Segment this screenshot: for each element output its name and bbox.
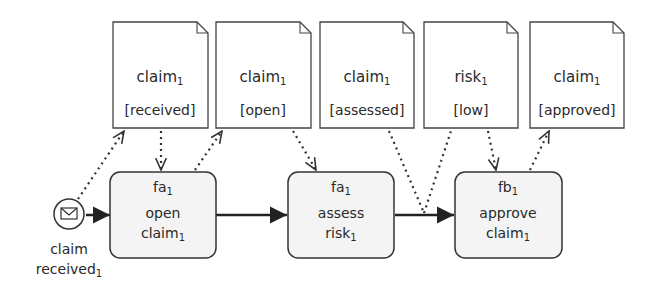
assoc-assess-to-risk [424,131,451,213]
data-object-state: [approved] [538,102,615,118]
data-object[interactable]: claim1 [assessed] [320,22,414,128]
data-object[interactable]: claim1 [approved] [530,22,624,128]
assoc-open-to-claim-open [195,131,222,170]
task[interactable]: fa1 open claim1 [110,172,216,258]
data-object-name: claim1 [344,68,391,87]
envelope-icon [61,208,77,219]
task-label-line1: approve [479,205,536,221]
data-object-name: claim1 [240,68,287,87]
task[interactable]: fa1 assess risk1 [288,172,394,258]
data-object[interactable]: claim1 [received] [113,22,208,128]
assoc-risk-to-approve [488,131,496,170]
data-object-name: claim1 [137,68,184,87]
assoc-claim-open-to-assess [293,131,316,170]
data-object-state: [open] [240,102,286,118]
task-label-line2: claim1 [141,225,185,243]
data-object-state: [low] [454,102,489,118]
task[interactable]: fb1 approve claim1 [455,172,562,258]
data-object[interactable]: risk1 [low] [424,22,518,128]
data-object[interactable]: claim1 [open] [216,22,311,128]
task-label-line1: assess [318,205,364,221]
process-diagram: claim1 [received] claim1 [open] claim1 [… [0,0,655,293]
task-label-line1: open [146,205,181,221]
start-event[interactable]: claim received1 [36,199,102,279]
assoc-approve-to-approved [530,131,549,170]
start-event-label-line2: received1 [36,261,102,279]
data-object-state: [received] [125,102,196,118]
start-event-label-line1: claim [50,241,88,257]
data-object-name: claim1 [554,68,601,87]
task-label-line2: claim1 [486,225,530,243]
data-object-state: [assessed] [330,102,405,118]
